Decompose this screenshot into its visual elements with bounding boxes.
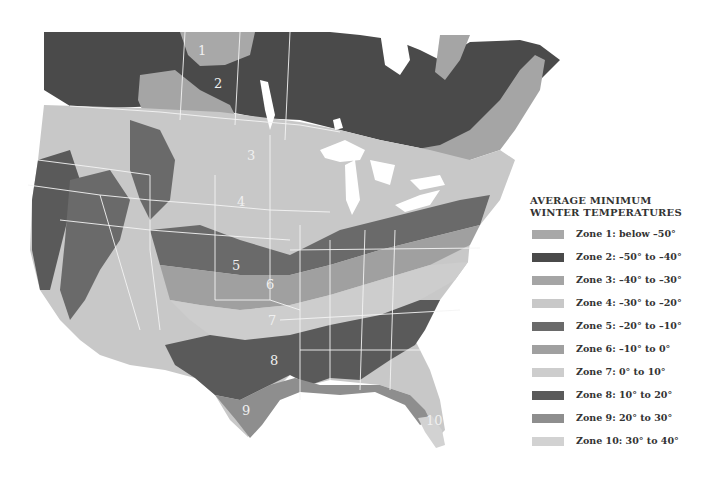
zone-label-8: 8 bbox=[270, 353, 278, 368]
legend-item-zone-8: Zone 8: 10° to 20° bbox=[530, 390, 704, 402]
legend-label: Zone 2: –50° to –40° bbox=[576, 251, 682, 262]
legend-title-line2: WINTER TEMPERATURES bbox=[530, 207, 704, 219]
zone-10-swatch bbox=[532, 437, 564, 446]
legend-label: Zone 3: –40° to –30° bbox=[576, 274, 682, 285]
legend-item-zone-10: Zone 10: 30° to 40° bbox=[530, 436, 704, 448]
zone-label-2: 2 bbox=[214, 76, 222, 91]
legend-label: Zone 1: below –50° bbox=[576, 228, 676, 239]
hardiness-zone-map: 1 2 3 4 5 6 7 8 9 10 bbox=[0, 0, 704, 483]
zone-label-10: 10 bbox=[426, 413, 443, 428]
legend-item-zone-1: Zone 1: below –50° bbox=[530, 229, 704, 241]
zone-label-4: 4 bbox=[237, 194, 245, 209]
zone-5-swatch bbox=[532, 322, 564, 331]
zone-7-swatch bbox=[532, 368, 564, 377]
zone-label-7: 7 bbox=[268, 313, 276, 328]
legend-item-zone-5: Zone 5: –20° to –10° bbox=[530, 321, 704, 333]
zone-label-3: 3 bbox=[247, 148, 255, 163]
zone-3-swatch bbox=[532, 276, 564, 285]
legend-label: Zone 4: –30° to –20° bbox=[576, 297, 682, 308]
legend-label: Zone 10: 30° to 40° bbox=[576, 435, 679, 446]
legend-item-zone-7: Zone 7: 0° to 10° bbox=[530, 367, 704, 379]
legend-label: Zone 8: 10° to 20° bbox=[576, 389, 672, 400]
legend-label: Zone 7: 0° to 10° bbox=[576, 366, 666, 377]
zone-label-5: 5 bbox=[232, 258, 240, 273]
legend-item-zone-4: Zone 4: –30° to –20° bbox=[530, 298, 704, 310]
zone-9-swatch bbox=[532, 414, 564, 423]
zone-1-swatch bbox=[532, 230, 564, 239]
legend-title-line1: AVERAGE MINIMUM bbox=[530, 195, 704, 207]
legend-label: Zone 6: –10° to 0° bbox=[576, 343, 670, 354]
legend-item-zone-3: Zone 3: –40° to –30° bbox=[530, 275, 704, 287]
zone-8-swatch bbox=[532, 391, 564, 400]
legend-label: Zone 9: 20° to 30° bbox=[576, 412, 672, 423]
legend-item-zone-6: Zone 6: –10° to 0° bbox=[530, 344, 704, 356]
zone-6-swatch bbox=[532, 345, 564, 354]
zone-label-1: 1 bbox=[198, 43, 206, 58]
zone-2-swatch bbox=[532, 253, 564, 262]
legend: AVERAGE MINIMUM WINTER TEMPERATURES Zone… bbox=[530, 195, 704, 219]
legend-label: Zone 5: –20° to –10° bbox=[576, 320, 682, 331]
legend-item-zone-2: Zone 2: –50° to –40° bbox=[530, 252, 704, 264]
zone-4-swatch bbox=[532, 299, 564, 308]
zone-label-6: 6 bbox=[266, 277, 274, 292]
legend-item-zone-9: Zone 9: 20° to 30° bbox=[530, 413, 704, 425]
zone-label-9: 9 bbox=[242, 403, 250, 418]
